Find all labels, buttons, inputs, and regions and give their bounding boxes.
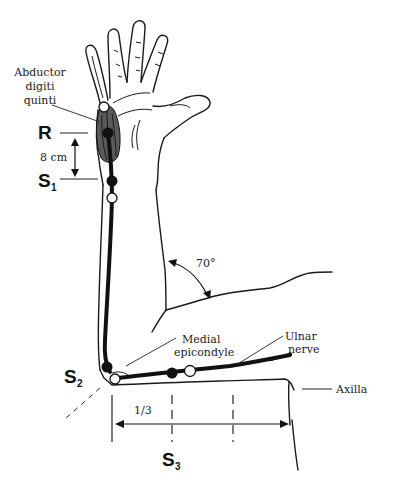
svg-text:70°: 70° [196,257,216,270]
svg-text:Medial: Medial [182,333,221,346]
svg-text:Ulnar: Ulnar [285,330,317,343]
label-abductor-digiti-quinti: Abductor digiti quinti [13,66,100,122]
svg-text:1/3: 1/3 [134,404,152,417]
label-s3: S [162,449,175,470]
svg-text:R: R [38,122,52,143]
electrode-s2-cathode [102,362,113,373]
upper-arm-outline [100,272,332,470]
label-s1: S 1 [38,170,98,193]
label-axilla: Axilla [302,383,368,396]
label-s2-sub: 2 [77,378,83,389]
elbow-dashed-line [66,388,100,418]
ulnar-nerve-conduction-diagram: Abductor digiti quinti R 8 cm S 1 70° Me… [0,0,393,487]
label-ulnar-nerve: Ulnar nerve [236,330,320,365]
electrode-s1-anode [107,193,117,203]
angle-70: 70° [168,257,216,299]
upper-arm-thirds-ticks [112,395,233,442]
svg-text:nerve: nerve [288,343,320,356]
electrode-s3-anode [185,366,196,377]
electrode-recording-active [103,128,114,139]
label-medial-epicondyle: Medial epicondyle [126,333,234,366]
label-recording: R [38,122,88,143]
label-s3-sub: 3 [175,461,181,472]
electrode-open-hand [99,102,109,112]
upper-arm-length-arrow: 1/3 [115,404,289,428]
svg-text:epicondyle: epicondyle [174,346,234,359]
svg-text:digiti: digiti [25,80,55,93]
svg-text:S: S [38,170,51,191]
electrode-s3-cathode [167,368,178,379]
svg-text:quinti: quinti [24,94,57,107]
electrode-s1-cathode [107,176,118,187]
label-s2: S [64,366,77,387]
svg-text:1: 1 [51,182,57,193]
svg-text:8 cm: 8 cm [40,151,68,164]
electrode-s2-anode [110,374,120,384]
svg-text:Abductor: Abductor [13,66,66,79]
svg-text:Axilla: Axilla [335,383,368,396]
